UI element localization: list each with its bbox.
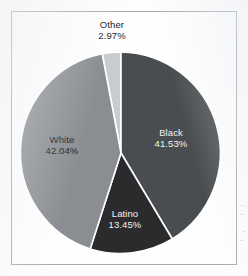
pie-label-other: Other 2.97%: [74, 19, 150, 41]
pie-label-latino-value: 13.45%: [90, 219, 160, 230]
pie-label-other-value: 2.97%: [74, 30, 150, 41]
scan-speckle: [241, 205, 244, 206]
scan-speckle: [240, 240, 244, 241]
pie-label-latino: Latino 13.45%: [90, 208, 160, 230]
scan-speckle: [240, 214, 244, 215]
pie-label-latino-name: Latino: [90, 208, 160, 219]
pie-chart: Other 2.97% Black 41.53% Latino 13.45% W…: [12, 12, 238, 266]
pie-label-black-name: Black: [138, 127, 204, 138]
pie-label-black: Black 41.53%: [138, 127, 204, 149]
pie-label-black-value: 41.53%: [138, 138, 204, 149]
pie-label-other-name: Other: [74, 19, 150, 30]
figure-root: Other 2.97% Black 41.53% Latino 13.45% W…: [0, 0, 248, 276]
pie-label-white-value: 42.04%: [29, 145, 95, 156]
scan-speckle: [242, 231, 245, 232]
pie-label-white-name: White: [29, 134, 95, 145]
pie-label-white: White 42.04%: [29, 134, 95, 156]
chart-frame: Other 2.97% Black 41.53% Latino 13.45% W…: [11, 11, 237, 265]
